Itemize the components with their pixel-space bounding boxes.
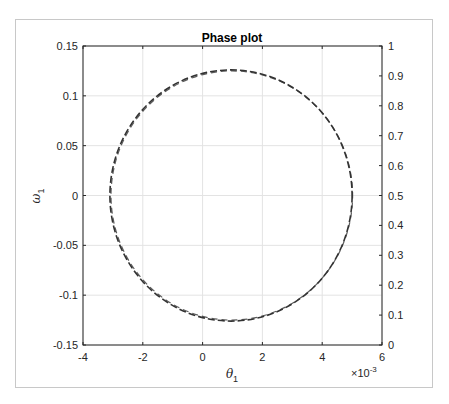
x-axis-label: θ1 — [226, 367, 238, 384]
y2-tick-label: 0.4 — [388, 219, 403, 231]
y-tick-label: 0.1 — [63, 90, 78, 102]
axis-ticks: -4-202460.150.10.050-0.05-0.1-0.1510.90.… — [53, 40, 403, 363]
y2-tick-label: 0.7 — [388, 130, 403, 142]
x-tick-label: 2 — [259, 351, 265, 363]
y2-tick-label: 0.9 — [388, 70, 403, 82]
y2-tick-label: 0.2 — [388, 279, 403, 291]
x-tick-label: -4 — [78, 351, 88, 363]
y-tick-label: 0.05 — [57, 140, 78, 152]
chart-title: Phase plot — [202, 31, 263, 45]
y-tick-label: 0 — [72, 190, 78, 202]
y-tick-label: 0.15 — [57, 40, 78, 52]
phase-plot-chart: -4-202460.150.10.050-0.05-0.1-0.1510.90.… — [0, 0, 449, 404]
x-tick-label: -2 — [138, 351, 148, 363]
x-tick-label: 0 — [200, 351, 206, 363]
y-axis-label: ω1 — [29, 189, 46, 204]
y-tick-label: -0.05 — [53, 239, 78, 251]
x-tick-label: 6 — [379, 351, 385, 363]
y2-tick-label: 0.1 — [388, 309, 403, 321]
y2-tick-label: 0.6 — [388, 160, 403, 172]
y2-tick-label: 0.5 — [388, 190, 403, 202]
grid-lines — [83, 46, 382, 345]
y2-tick-label: 0.3 — [388, 249, 403, 261]
y-tick-label: -0.15 — [53, 339, 78, 351]
y2-tick-label: 0.8 — [388, 100, 403, 112]
y-tick-label: -0.1 — [59, 289, 78, 301]
x-exponent-label: ×10-3 — [351, 365, 377, 379]
y2-tick-label: 0 — [388, 339, 394, 351]
y2-tick-label: 1 — [388, 40, 394, 52]
x-tick-label: 4 — [319, 351, 325, 363]
